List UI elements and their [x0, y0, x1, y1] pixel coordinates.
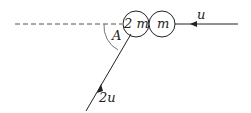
- label-m: m: [157, 16, 169, 31]
- label-2u: 2u: [98, 90, 116, 105]
- label-angle-A: A: [111, 28, 121, 43]
- arrow-u-icon: [190, 21, 197, 27]
- label-u: u: [197, 7, 205, 22]
- label-2m: 2 m: [123, 16, 149, 31]
- collision-diagram: 2 m m u 2u A: [0, 0, 251, 113]
